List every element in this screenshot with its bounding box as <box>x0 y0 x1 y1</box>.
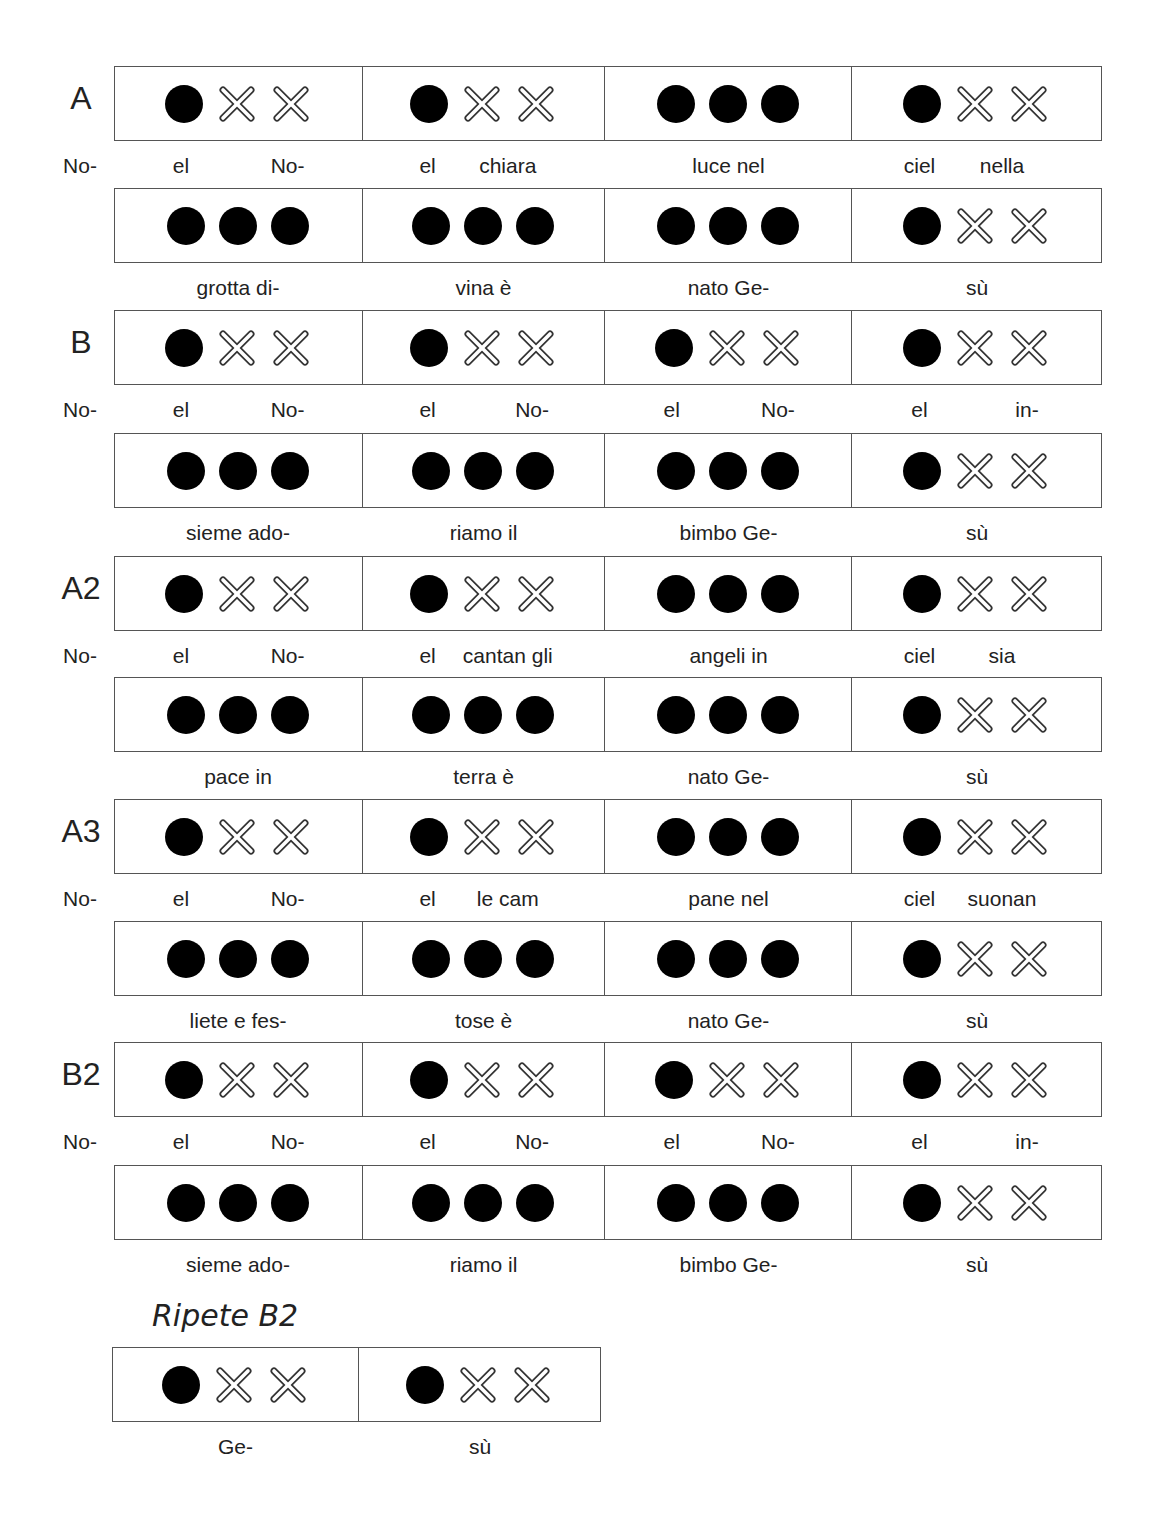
filled-circle-icon <box>165 329 203 367</box>
bar-cell <box>115 800 363 873</box>
lyric-row: Ge-sù <box>112 1435 601 1465</box>
lyric-syllable: angeli in <box>689 644 767 668</box>
lyric-syllable: sù <box>966 1253 988 1277</box>
lyric-syllable: riamo il <box>450 1253 518 1277</box>
lyric-cell: pace in <box>114 765 362 795</box>
filled-circle-icon <box>516 452 554 490</box>
lyric-syllable: No- <box>761 1130 795 1154</box>
filled-circle-icon <box>410 818 448 856</box>
filled-circle-icon <box>219 940 257 978</box>
lyric-syllable: ciel <box>904 154 936 178</box>
lyric-row: pace interra ènato Ge-sù <box>114 765 1102 795</box>
rest-x-icon <box>955 1183 995 1223</box>
lyric-syllable: sù <box>966 765 988 789</box>
lyric-cell: elin- <box>852 1130 1102 1160</box>
lyric-row: elNo-elchiaraluce nelcielnella <box>114 154 1102 184</box>
bar-row <box>114 1042 1102 1117</box>
lyric-syllable: No- <box>271 398 305 422</box>
filled-circle-icon <box>903 818 941 856</box>
lyric-cell: cielnella <box>852 154 1102 184</box>
bar-cell <box>359 1348 600 1421</box>
filled-circle-icon <box>903 207 941 245</box>
lyric-cell: sieme ado- <box>114 1253 362 1283</box>
rest-x-icon <box>1009 451 1049 491</box>
lyric-cell: nato Ge- <box>605 276 852 306</box>
filled-circle-icon <box>903 575 941 613</box>
bar-cell <box>605 434 852 507</box>
lyric-cell: vina è <box>362 276 605 306</box>
bar-row <box>114 921 1102 996</box>
filled-circle-icon <box>271 207 309 245</box>
lyric-syllable: No- <box>271 1130 305 1154</box>
lyric-cell: elin- <box>852 398 1102 428</box>
lyric-row: liete e fes-tose ènato Ge-sù <box>114 1009 1102 1039</box>
bar-cell <box>363 1043 606 1116</box>
lyric-cell: elNo- <box>362 398 605 428</box>
bar-cell <box>363 557 606 630</box>
lyric-row: sieme ado-riamo ilbimbo Ge-sù <box>114 521 1102 551</box>
filled-circle-icon <box>761 207 799 245</box>
bar-cell <box>605 311 852 384</box>
rest-x-icon <box>217 574 257 614</box>
lyric-syllable: sù <box>469 1435 491 1459</box>
lyric-syllable: nato Ge- <box>688 1009 770 1033</box>
filled-circle-icon <box>516 1184 554 1222</box>
rest-x-icon <box>217 328 257 368</box>
filled-circle-icon <box>167 696 205 734</box>
filled-circle-icon <box>165 1061 203 1099</box>
lyric-syllable: bimbo Ge- <box>679 521 777 545</box>
bar-row <box>114 1165 1102 1240</box>
filled-circle-icon <box>464 696 502 734</box>
filled-circle-icon <box>761 696 799 734</box>
lyric-cell: pane nel <box>605 887 852 917</box>
bar-cell <box>605 189 852 262</box>
rest-x-icon <box>462 1060 502 1100</box>
bar-cell <box>852 800 1102 873</box>
lyric-syllable: el <box>173 1130 189 1154</box>
filled-circle-icon <box>709 85 747 123</box>
lyric-cell: elle cam <box>362 887 605 917</box>
lyric-cell: terra è <box>362 765 605 795</box>
bar-cell <box>115 557 363 630</box>
lyric-cell: riamo il <box>362 521 605 551</box>
lyric-syllable: sieme ado- <box>186 1253 290 1277</box>
lyric-syllable: liete e fes- <box>190 1009 287 1033</box>
filled-circle-icon <box>412 696 450 734</box>
filled-circle-icon <box>657 207 695 245</box>
filled-circle-icon <box>464 1184 502 1222</box>
lyric-syllable: No- <box>515 398 549 422</box>
lyric-syllable: el <box>173 644 189 668</box>
lyric-syllable: in- <box>1015 398 1038 422</box>
lyric-cell: sù <box>359 1435 601 1465</box>
lyric-row: elNo-elNo-elNo-elin- <box>114 1130 1102 1160</box>
lyric-syllable: Ge- <box>218 1435 253 1459</box>
filled-circle-icon <box>410 329 448 367</box>
rest-x-icon <box>217 1060 257 1100</box>
lyric-syllable: el <box>419 1130 435 1154</box>
bar-cell <box>852 557 1102 630</box>
pickup-syllable: No- <box>58 398 102 422</box>
lyric-cell: elcantan gli <box>362 644 605 674</box>
bar-cell <box>852 67 1102 140</box>
filled-circle-icon <box>657 940 695 978</box>
filled-circle-icon <box>410 85 448 123</box>
lyric-syllable: No- <box>271 887 305 911</box>
lyric-syllable: el <box>911 398 927 422</box>
filled-circle-icon <box>903 85 941 123</box>
bar-cell <box>115 922 363 995</box>
pickup-syllable: No- <box>58 887 102 911</box>
bar-row <box>114 556 1102 631</box>
bar-cell <box>115 1166 363 1239</box>
rest-x-icon <box>955 939 995 979</box>
rest-x-icon <box>707 1060 747 1100</box>
filled-circle-icon <box>167 452 205 490</box>
lyric-syllable: chiara <box>479 154 536 178</box>
lyric-cell: liete e fes- <box>114 1009 362 1039</box>
rest-x-icon <box>955 451 995 491</box>
bar-cell <box>605 922 852 995</box>
rest-x-icon <box>516 328 556 368</box>
filled-circle-icon <box>167 207 205 245</box>
rest-x-icon <box>1009 84 1049 124</box>
filled-circle-icon <box>271 696 309 734</box>
rest-x-icon <box>1009 328 1049 368</box>
